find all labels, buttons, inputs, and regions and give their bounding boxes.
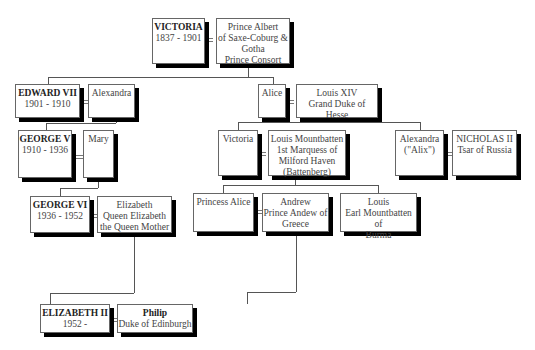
connector [420,122,421,130]
person-louis-mountbatten[interactable]: Louis Mountbatten 1st Marquess of Milfor… [268,130,346,176]
connector [48,77,49,84]
connector [46,123,116,124]
person-name: NICHOLAS II [453,134,516,145]
connector [50,293,134,294]
person-princess-alice[interactable]: Princess Alice [193,193,254,232]
person-victoria-2[interactable]: Victoria [218,130,258,176]
person-line: Grand Duke of Hesse [297,99,377,121]
person-name: GEORGE VI [31,200,89,211]
person-name: ELIZABETH II [41,308,109,319]
marriage-marker [258,152,266,156]
person-alice[interactable]: Alice [258,84,286,118]
marriage-marker [254,210,262,214]
person-name: VICTORIA [153,22,204,33]
person-victoria[interactable]: VICTORIA 1837 - 1901 [152,18,205,64]
person-line: Elizabeth [98,200,171,211]
connector [273,77,274,84]
connector [378,185,379,193]
marriage-marker [444,152,452,156]
person-line: Burma [341,230,416,241]
connector [46,123,47,130]
marriage-marker [205,38,213,42]
person-reign: 1901 - 1910 [16,99,79,110]
person-line: (Battenberg) [269,167,345,178]
person-line: Alice [259,88,285,99]
connector [50,293,51,304]
marriage-marker [75,155,83,159]
person-louis-earl-mountbatten[interactable]: Louis Earl Mountbatten of Burma [340,193,417,232]
person-line: Alexandra [396,134,443,145]
person-george-vi[interactable]: GEORGE VI 1936 - 1952 [30,196,90,233]
person-line: ("Alix") [396,145,443,156]
person-reign: 1936 - 1952 [31,211,89,222]
person-andrew[interactable]: Andrew Prince Andew of Greece [262,193,329,232]
connector [48,77,273,78]
connector [98,178,99,188]
person-line: Louis XIV [297,88,377,99]
person-line: Louis Mountbatten [269,134,345,145]
person-alexandra[interactable]: Alexandra [88,84,135,118]
person-line: Greece [263,219,328,230]
connector [247,292,296,293]
connector [238,122,420,123]
person-reign: 1952 - [41,319,109,330]
person-line: Gotha [217,44,289,55]
marriage-marker [80,100,88,104]
person-line: Prince Consort [217,55,289,66]
person-name: GEORGE V [19,134,71,145]
person-line: 1st Marquess of [269,145,345,156]
connector [223,185,378,186]
person-line: the Queen Mother [98,222,171,233]
person-line: Milford Haven [269,156,345,167]
person-reign: 1837 - 1901 [153,33,204,44]
person-line: Tsar of Russia [453,145,516,156]
person-name: Philip [118,308,192,319]
connector [60,188,61,196]
person-line: Mary [84,134,113,145]
person-elizabeth-queen-mother[interactable]: Elizabeth Queen Elizabeth the Queen Moth… [97,196,172,233]
person-name: EDWARD VII [16,88,79,99]
person-george-v[interactable]: GEORGE V 1910 - 1936 [18,130,72,178]
connector [238,122,239,130]
connector [296,232,297,292]
person-line: Victoria [219,134,257,145]
person-line: Princess Alice [194,197,253,208]
connector [247,292,248,304]
person-philip[interactable]: Philip Duke of Edinburgh [117,304,193,333]
person-line: Queen Elizabeth [98,211,171,222]
person-nicholas-ii[interactable]: NICHOLAS II Tsar of Russia [452,130,517,176]
person-line: of Saxe-Coburg & [217,33,289,44]
person-louis-xiv[interactable]: Louis XIV Grand Duke of Hesse [296,84,378,118]
connector [60,188,98,189]
connector [116,118,117,123]
person-line: Andrew [263,197,328,208]
person-line: Prince Albert [217,22,289,33]
person-elizabeth-ii[interactable]: ELIZABETH II 1952 - [40,304,110,333]
person-line: Prince Andew of [263,208,328,219]
person-line: Earl Mountbatten of [341,208,416,230]
person-line: Duke of Edinburgh [118,319,192,330]
connector [223,185,224,193]
person-edward-vii[interactable]: EDWARD VII 1901 - 1910 [15,84,80,118]
person-alexandra-alix[interactable]: Alexandra ("Alix") [395,130,444,176]
marriage-marker [286,100,294,104]
person-mary[interactable]: Mary [83,130,114,178]
person-albert[interactable]: Prince Albert of Saxe-Coburg & Gotha Pri… [216,18,290,64]
person-line: Louis [341,197,416,208]
person-reign: 1910 - 1936 [19,145,71,156]
person-line: Alexandra [89,88,134,99]
connector [134,233,135,293]
